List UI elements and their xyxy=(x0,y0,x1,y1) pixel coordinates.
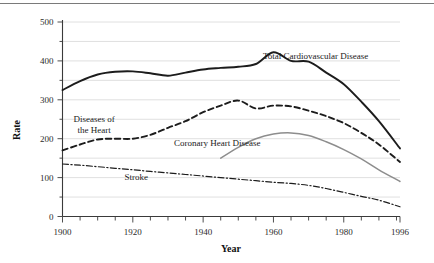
data-series-group xyxy=(63,52,401,207)
series-label-diseases-of-the-heart-line1: Diseases of xyxy=(74,114,115,124)
x-tick-label-1996: 1996 xyxy=(391,227,410,237)
y-tick-marks-group xyxy=(58,22,63,217)
x-tick-labels-group: 190019201940196019801996 xyxy=(54,227,410,237)
x-tick-label-1920: 1920 xyxy=(124,227,143,237)
series-label-total-cardiovascular-disease: Total Cardiovascular Disease xyxy=(263,51,368,61)
series-line-total-cardiovascular-disease xyxy=(63,52,401,148)
series-line-stroke xyxy=(63,164,401,207)
y-tick-label-100: 100 xyxy=(40,173,54,183)
x-tick-label-1980: 1980 xyxy=(335,227,354,237)
series-label-coronary-heart-disease: Coronary Heart Disease xyxy=(174,138,260,148)
chart-figure: 0100200300400500 19001920194019601980199… xyxy=(0,0,434,263)
y-tick-label-0: 0 xyxy=(49,212,54,222)
series-label-stroke: Stroke xyxy=(125,172,149,182)
line-chart-svg: 0100200300400500 19001920194019601980199… xyxy=(0,0,434,263)
x-tick-label-1900: 1900 xyxy=(54,227,73,237)
x-tick-label-1960: 1960 xyxy=(264,227,283,237)
x-tick-marks-group xyxy=(63,217,401,223)
y-tick-label-200: 200 xyxy=(40,134,54,144)
chart-plot-area: 0100200300400500 19001920194019601980199… xyxy=(0,0,434,263)
y-tick-label-500: 500 xyxy=(40,17,54,27)
y-tick-label-300: 300 xyxy=(40,95,54,105)
series-label-diseases-of-the-heart-line2: the Heart xyxy=(78,125,112,135)
x-tick-label-1940: 1940 xyxy=(194,227,213,237)
y-tick-label-400: 400 xyxy=(40,56,54,66)
y-tick-labels-group: 0100200300400500 xyxy=(40,17,54,222)
x-axis-title: Year xyxy=(221,243,242,254)
y-axis-title: Rate xyxy=(11,119,22,140)
